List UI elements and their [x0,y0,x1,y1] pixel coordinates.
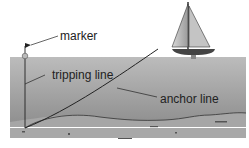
diagram-canvas [0,0,249,148]
anchor-diagram: marker tripping line anchor line [0,0,249,148]
anchor-line-label: anchor line [160,93,219,105]
marker-pointer [31,36,58,45]
seabed-bottom [10,128,246,138]
marker-label: marker [60,30,97,42]
marker-flag-icon [25,43,31,48]
tripping-line-label: tripping line [52,69,113,81]
sailboat-icon [172,2,215,59]
marker-buoy [22,53,28,59]
